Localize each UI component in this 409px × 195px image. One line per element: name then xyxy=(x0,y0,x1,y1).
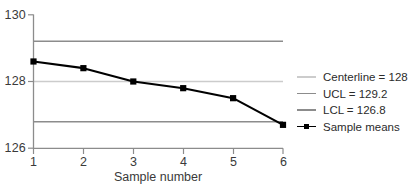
legend-item-ucl: UCL = 129.2 xyxy=(297,87,408,101)
data-point-marker xyxy=(80,65,86,71)
legend-item-sample-means: Sample means xyxy=(297,120,408,134)
x-tick-label-1: 1 xyxy=(21,155,46,169)
sample-means-markers xyxy=(30,58,286,128)
data-point-marker xyxy=(30,58,36,64)
chart-legend: Centerline = 128 UCL = 129.2 LCL = 126.8… xyxy=(297,70,408,136)
legend-item-centerline: Centerline = 128 xyxy=(297,70,408,84)
y-tick-label-130: 130 xyxy=(0,8,26,22)
lcl-swatch-icon xyxy=(297,103,316,117)
x-axis-title: Sample number xyxy=(33,170,283,184)
data-point-marker xyxy=(230,95,236,101)
x-tick-label-4: 4 xyxy=(171,155,196,169)
x-tick-label-3: 3 xyxy=(121,155,146,169)
y-tick-label-126: 126 xyxy=(0,141,26,155)
legend-label-sample-means: Sample means xyxy=(323,121,400,133)
legend-label-centerline: Centerline = 128 xyxy=(323,71,408,83)
legend-item-lcl: LCL = 126.8 xyxy=(297,103,408,117)
data-point-marker xyxy=(180,85,186,91)
y-tick-label-128: 128 xyxy=(0,74,26,88)
centerline-swatch-icon xyxy=(297,70,316,84)
legend-label-lcl: LCL = 126.8 xyxy=(323,104,386,116)
data-point-marker xyxy=(130,78,136,84)
ucl-swatch-icon xyxy=(297,87,316,101)
x-tick-label-2: 2 xyxy=(71,155,96,169)
legend-label-ucl: UCL = 129.2 xyxy=(323,88,387,100)
control-chart: 130 128 126 1 2 3 4 5 6 Sample number Ce… xyxy=(0,0,409,195)
sample-means-swatch-icon xyxy=(297,120,316,134)
x-tick-label-5: 5 xyxy=(221,155,246,169)
x-tick-label-6: 6 xyxy=(271,155,296,169)
sample-means-line xyxy=(34,61,284,124)
data-point-marker xyxy=(280,122,286,128)
